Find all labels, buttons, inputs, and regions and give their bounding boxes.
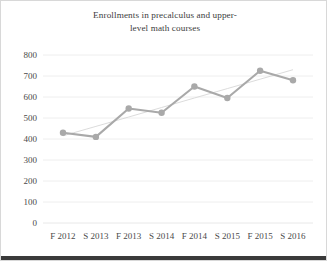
trendline-path: [63, 70, 293, 136]
y-tick-label: 700: [24, 71, 38, 81]
data-point-marker: [126, 105, 132, 111]
data-point-marker: [93, 134, 99, 140]
y-tick-label: 200: [24, 176, 38, 186]
y-tick-label: 0: [33, 218, 38, 228]
data-point-markers: [60, 68, 296, 140]
y-tick-label: 300: [24, 155, 38, 165]
y-axis-tick-labels: 0100200300400500600700800: [24, 50, 38, 228]
data-point-marker: [60, 130, 66, 136]
x-tick-label: F 2014: [182, 231, 208, 241]
y-tick-label: 500: [24, 113, 38, 123]
x-tick-label: S 2016: [280, 231, 306, 241]
x-tick-label: F 2015: [248, 231, 274, 241]
y-tick-label: 400: [24, 134, 38, 144]
x-axis-tick-labels: F 2012S 2013F 2013S 2014F 2014S 2015F 20…: [50, 231, 306, 241]
data-point-marker: [290, 77, 296, 83]
x-tick-label: S 2015: [215, 231, 241, 241]
y-tick-label: 100: [24, 197, 38, 207]
bottom-edge-band: [1, 256, 326, 260]
series-line-path: [63, 71, 293, 137]
x-tick-label: S 2013: [83, 231, 109, 241]
gridlines: [43, 55, 313, 223]
y-tick-label: 600: [24, 92, 38, 102]
chart-screenshot: Enrollments in precalculus and upper- le…: [0, 0, 327, 261]
x-tick-label: S 2014: [149, 231, 175, 241]
data-point-marker: [158, 110, 164, 116]
data-point-marker: [224, 95, 230, 101]
line-chart: 0100200300400500600700800 F 2012S 2013F …: [1, 1, 327, 261]
plot-area: 0100200300400500600700800 F 2012S 2013F …: [1, 1, 327, 261]
data-point-marker: [257, 68, 263, 74]
data-point-marker: [191, 83, 197, 89]
y-tick-label: 800: [24, 50, 38, 60]
x-tick-label: F 2012: [50, 231, 75, 241]
x-tick-label: F 2013: [116, 231, 142, 241]
